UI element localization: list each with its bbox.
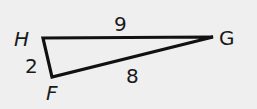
side-label-fg: 8 (126, 64, 139, 88)
side-label-hf: 2 (25, 54, 38, 78)
triangle-diagram: H G F 9 2 8 (0, 0, 257, 109)
vertex-label-h: H (14, 27, 29, 51)
vertex-label-f: F (46, 81, 58, 105)
vertex-label-g: G (219, 26, 235, 50)
side-label-hg: 9 (114, 12, 127, 36)
